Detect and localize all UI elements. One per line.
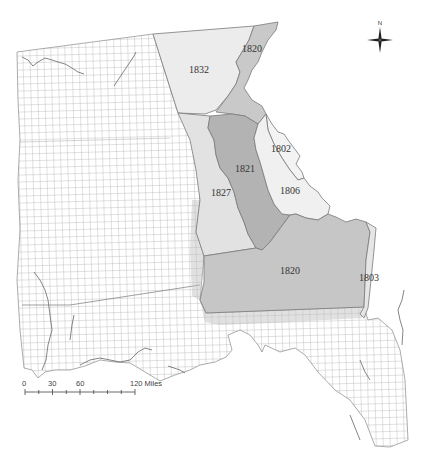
coast-icon [350,415,360,440]
label-1820-south: 1820 [280,265,300,276]
historical-land-survey-map: 1832 1820 1821 1827 1802 1806 1820 1803 … [0,0,423,466]
label-1820-north: 1820 [242,43,262,54]
scale-tick-120: 120 Miles [130,379,162,388]
scale-tick-60: 60 [76,379,84,388]
scale-tick-0: 0 [22,379,26,388]
scale-tick-30: 30 [48,379,56,388]
label-1832: 1832 [189,64,209,75]
north-label: N [378,20,382,26]
label-1806: 1806 [280,185,300,196]
label-1803: 1803 [359,272,379,283]
north-arrow-icon: N [367,20,393,53]
label-1821: 1821 [235,163,255,174]
label-1827: 1827 [211,187,231,198]
label-1802: 1802 [271,143,291,154]
scale-bar: 0 30 60 120 Miles [22,379,162,395]
coast-icon [398,290,404,345]
